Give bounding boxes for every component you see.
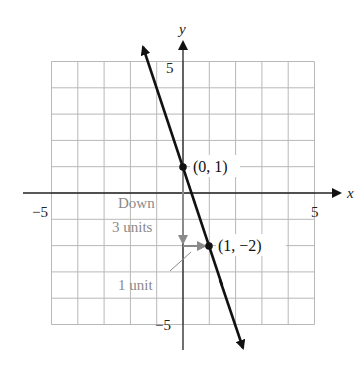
point-label-1-neg2: (1, −2) (218, 237, 262, 255)
one-unit-leader (170, 252, 191, 271)
y-tick-neg5: −5 (155, 317, 171, 333)
x-tick-neg5: −5 (32, 204, 48, 220)
one-unit-label: 1 unit (118, 277, 153, 293)
chart: x y −5 5 5 −5 Down 3 units 1 unit (0, 1)… (0, 0, 358, 373)
down-label-line2: 3 units (112, 219, 153, 235)
y-axis-label: y (177, 21, 186, 37)
x-tick-pos5: 5 (311, 204, 319, 220)
down-label-line1: Down (118, 195, 155, 211)
point-0-1 (179, 163, 187, 171)
x-axis-label: x (346, 185, 354, 201)
point-label-0-1: (0, 1) (193, 158, 228, 176)
y-tick-pos5: 5 (166, 60, 174, 76)
line-series-lower (220, 280, 243, 348)
point-1-neg2 (205, 242, 213, 250)
